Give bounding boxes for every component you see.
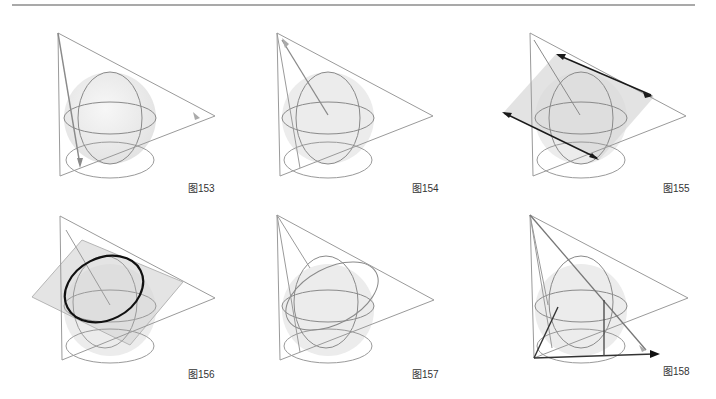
figure-153: 图153	[0, 0, 240, 200]
figure-157: 图157	[240, 200, 480, 399]
figure-154: 图154	[240, 0, 480, 200]
sphere-cone-diagram-icon	[240, 0, 480, 200]
caption-154: 图154	[412, 180, 439, 195]
sphere-cone-diagram-icon	[0, 0, 240, 200]
sphere-cone-plane-diagram-icon	[476, 0, 716, 200]
caption-157: 图157	[412, 366, 439, 381]
figure-156: 图156	[0, 200, 240, 399]
caption-156: 图156	[188, 366, 215, 381]
figure-158: 图158	[476, 200, 716, 399]
caption-155: 图155	[663, 180, 690, 195]
sphere-cone-diagram-icon	[240, 200, 480, 399]
figure-155: 图155	[476, 0, 716, 200]
caption-153: 图153	[188, 180, 215, 195]
caption-158: 图158	[663, 363, 690, 378]
